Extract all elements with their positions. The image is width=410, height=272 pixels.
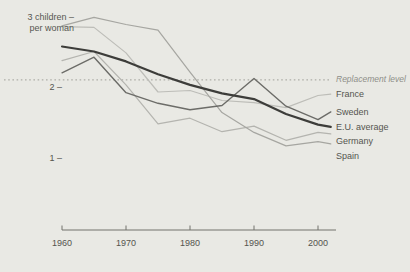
y-tick-label-2: 2 –	[49, 82, 62, 92]
series-label-sweden: Sweden	[336, 107, 369, 117]
x-tick-label-1990: 1990	[244, 238, 264, 248]
series-label-spain: Spain	[336, 151, 359, 161]
chart-svg: 196019701980199020002 –1 –3 children –pe…	[0, 0, 410, 272]
y-tick-label-1: 1 –	[49, 153, 62, 163]
series-line-spain	[62, 17, 331, 146]
fertility-chart-page: 196019701980199020002 –1 –3 children –pe…	[0, 0, 410, 272]
x-tick-label-1960: 1960	[52, 238, 72, 248]
x-tick-label-2000: 2000	[308, 238, 328, 248]
series-label-france: France	[336, 89, 364, 99]
replacement-level-label: Replacement level	[336, 74, 407, 84]
unit-label-line-2: per woman	[29, 23, 74, 33]
series-label-germany: Germany	[336, 136, 374, 146]
series-line-e-u-average	[62, 47, 331, 127]
x-tick-label-1980: 1980	[180, 238, 200, 248]
series-label-e-u-average: E.U. average	[336, 122, 389, 132]
series-line-sweden	[62, 57, 331, 119]
x-tick-label-1970: 1970	[116, 238, 136, 248]
unit-label-line-1: 3 children –	[27, 12, 74, 22]
series-line-germany	[62, 52, 331, 141]
